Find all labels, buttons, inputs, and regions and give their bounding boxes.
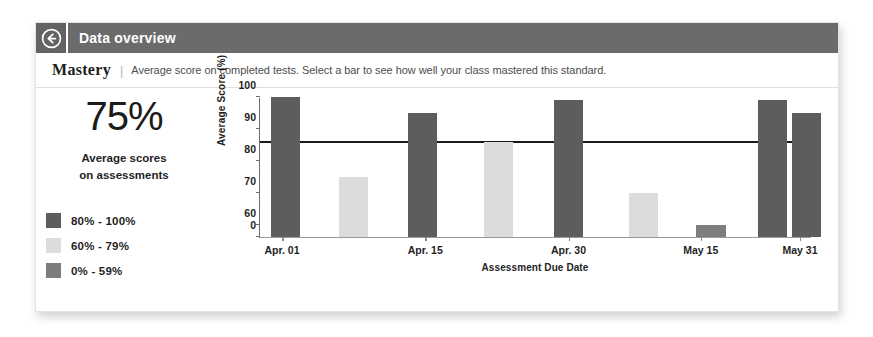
x-axis-tick-mark	[701, 237, 703, 241]
y-axis-tick-mark	[256, 160, 260, 162]
y-axis-label: Average Score (%)	[216, 55, 227, 146]
data-overview-card: Data overview Mastery | Average score on…	[35, 22, 839, 312]
content-body: 75% Average scores on assessments 80% - …	[36, 88, 838, 312]
chart-bar[interactable]	[792, 113, 821, 237]
caption-line-2: on assessments	[36, 167, 212, 184]
legend-swatch-icon	[46, 263, 61, 278]
y-axis-tick-mark	[256, 192, 260, 194]
legend-item-label: 80% - 100%	[71, 215, 136, 227]
chart-bar[interactable]	[339, 177, 368, 237]
legend-item[interactable]: 0% - 59%	[46, 258, 218, 283]
y-axis-tick-mark	[256, 236, 260, 238]
caption-line-1: Average scores	[36, 150, 212, 167]
back-button[interactable]	[36, 23, 66, 53]
chart-bar[interactable]	[554, 100, 583, 237]
x-axis-tick-label: Apr. 01	[265, 244, 300, 256]
legend-item-label: 60% - 79%	[71, 240, 129, 252]
legend-swatch-icon	[46, 213, 61, 228]
chart-bar[interactable]	[696, 225, 725, 237]
average-score-value: 75%	[36, 96, 218, 136]
mastery-description: Average score on completed tests. Select…	[131, 64, 606, 76]
average-score-caption: Average scores on assessments	[36, 150, 218, 183]
y-axis-tick-label: 80	[244, 143, 256, 155]
x-axis-label: Assessment Due Date	[259, 262, 811, 273]
plot-area: 060708090100Apr. 01Apr. 15Apr. 30May 15M…	[259, 98, 811, 238]
summary-panel: 75% Average scores on assessments 80% - …	[36, 88, 218, 312]
x-axis-tick-label: May 31	[782, 244, 817, 256]
legend-item-label: 0% - 59%	[71, 265, 122, 277]
bar-chart: Average Score (%) 060708090100Apr. 01Apr…	[218, 94, 818, 284]
chart-panel: Average Score (%) 060708090100Apr. 01Apr…	[218, 88, 838, 312]
x-axis-tick-label: May 15	[683, 244, 718, 256]
legend-item[interactable]: 60% - 79%	[46, 233, 218, 258]
x-axis-tick-label: Apr. 15	[408, 244, 443, 256]
y-axis-tick-label: 60	[244, 207, 256, 219]
x-axis-tick-label: Apr. 30	[551, 244, 586, 256]
chart-bar[interactable]	[484, 142, 513, 237]
mastery-label: Mastery	[52, 61, 111, 79]
mastery-subheader: Mastery | Average score on completed tes…	[36, 53, 838, 88]
y-axis-tick-mark	[256, 128, 260, 130]
x-axis-tick-mark	[282, 237, 284, 241]
page-title: Data overview	[68, 30, 176, 46]
back-arrow-circle-icon	[41, 28, 62, 49]
x-axis-tick-mark	[425, 237, 427, 241]
legend-swatch-icon	[46, 238, 61, 253]
x-axis-tick-mark	[569, 237, 571, 241]
chart-bar[interactable]	[758, 100, 787, 237]
mastery-separator: |	[120, 63, 123, 78]
mastery-legend: 80% - 100%60% - 79%0% - 59%	[36, 208, 218, 283]
chart-bar[interactable]	[271, 97, 300, 237]
y-axis-tick-label: 90	[244, 111, 256, 123]
window-header: Data overview	[36, 23, 838, 53]
y-axis-tick-mark	[256, 224, 260, 226]
chart-bar[interactable]	[408, 113, 437, 237]
x-axis-tick-mark	[800, 237, 802, 241]
legend-item[interactable]: 80% - 100%	[46, 208, 218, 233]
y-axis-tick-mark	[256, 96, 260, 98]
y-axis-tick-label: 70	[244, 175, 256, 187]
threshold-line	[260, 141, 811, 144]
chart-bar[interactable]	[629, 193, 658, 237]
y-axis-tick-label: 100	[238, 79, 256, 91]
